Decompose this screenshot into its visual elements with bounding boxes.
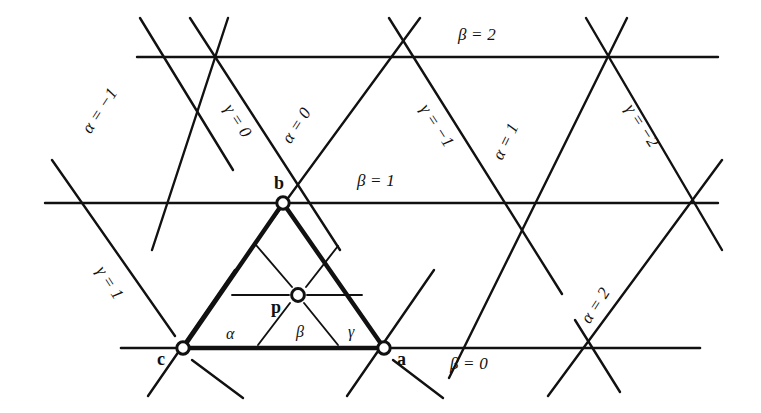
vertex-marker-c: [177, 342, 189, 354]
label-beta-2: β = 2: [458, 26, 496, 43]
gamma-minus1-line: [389, 18, 562, 294]
label-point-p: p: [271, 298, 281, 316]
gamma-0-line: [190, 18, 340, 250]
label-vertex-c: c: [157, 350, 165, 368]
alpha-minus1-line-upper: [152, 18, 228, 250]
point-marker-p: [292, 289, 305, 302]
alpha-2-line: [548, 160, 722, 396]
lattice-drawing: [0, 0, 761, 413]
label-vertex-b: b: [274, 174, 284, 192]
figure-canvas: β = 2 β = 1 β = 0 α = −1 α = 0 α = 1 α =…: [0, 0, 761, 413]
p-ray-upper-right: [306, 246, 338, 287]
label-angle-gamma: γ: [348, 324, 355, 340]
lattice-vertices-group: [177, 197, 390, 354]
alpha-0-line-lower: [347, 270, 434, 396]
label-angle-alpha: α: [226, 326, 235, 342]
p-ray-upper-left: [256, 245, 292, 287]
vertex-marker-a: [378, 342, 390, 354]
vertex-marker-b: [277, 197, 289, 209]
label-beta-1: β = 1: [357, 172, 395, 189]
label-angle-beta: β: [296, 324, 304, 340]
gamma-1-line-tail: [192, 360, 243, 398]
p-ray-lower-right: [304, 303, 338, 345]
label-beta-0: β = 0: [450, 355, 488, 372]
gamma-1-line-mid: [52, 160, 175, 336]
label-vertex-a: a: [397, 350, 406, 368]
